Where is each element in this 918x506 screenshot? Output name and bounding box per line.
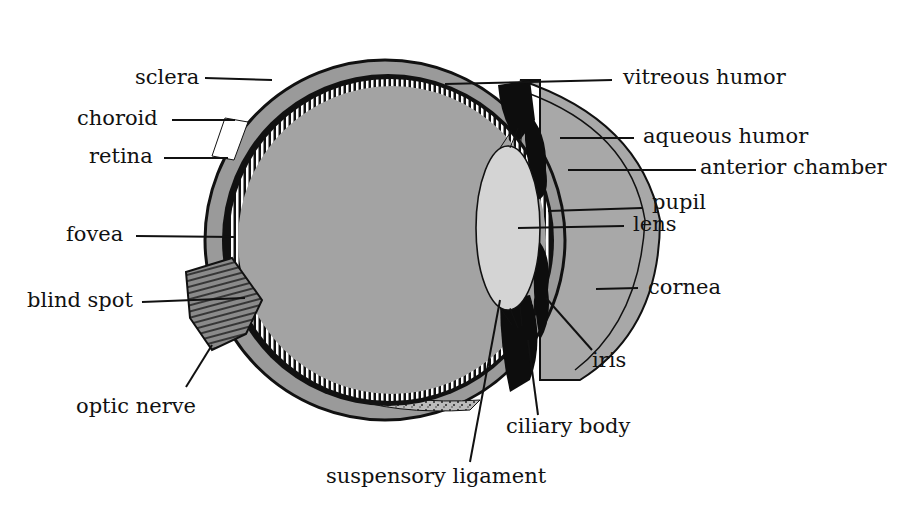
- label-pupil: pupil: [652, 192, 706, 213]
- label-suspensory-ligament: suspensory ligament: [326, 466, 546, 487]
- label-choroid: choroid: [77, 108, 158, 129]
- label-ciliary-body: ciliary body: [506, 416, 630, 437]
- label-iris: iris: [592, 350, 626, 371]
- label-vitreous-humor: vitreous humor: [623, 67, 786, 88]
- eye-diagram: sclera choroid retina fovea blind spot o…: [0, 0, 918, 506]
- label-sclera: sclera: [135, 67, 199, 88]
- label-aqueous-humor: aqueous humor: [643, 126, 808, 147]
- label-optic-nerve: optic nerve: [76, 396, 196, 417]
- label-anterior-chamber: anterior chamber: [700, 157, 887, 178]
- label-retina: retina: [89, 146, 153, 167]
- label-lens: lens: [633, 214, 676, 235]
- label-blind-spot: blind spot: [27, 290, 133, 311]
- label-cornea: cornea: [648, 277, 721, 298]
- label-fovea: fovea: [66, 224, 123, 245]
